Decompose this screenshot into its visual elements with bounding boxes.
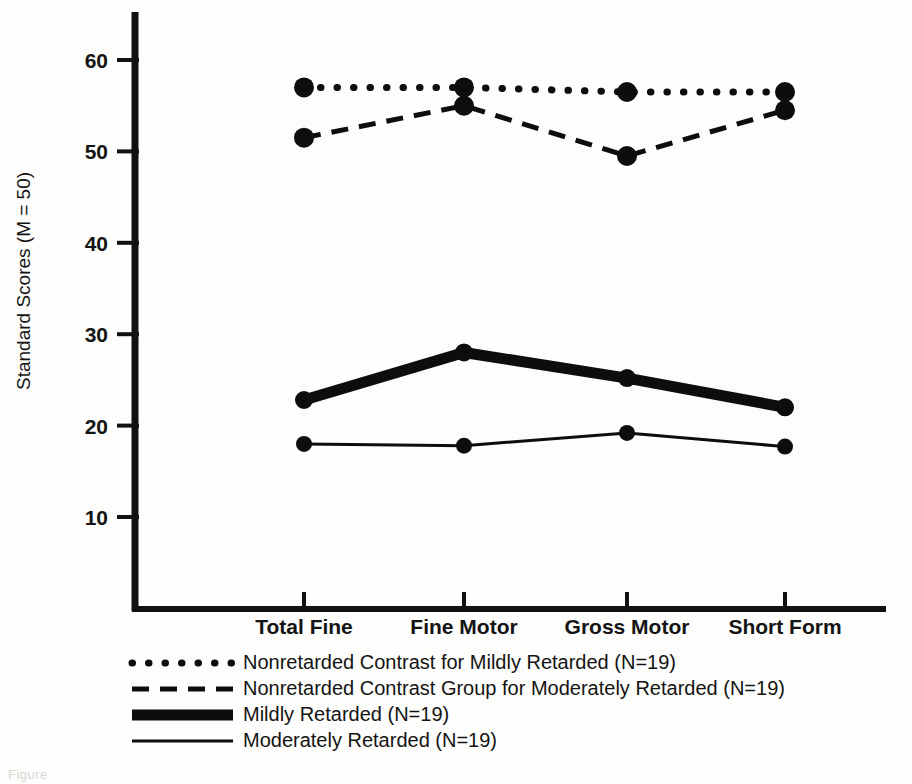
y-axis-title: Standard Scores (M = 50) <box>13 172 34 390</box>
data-point <box>618 369 636 387</box>
data-point <box>454 96 474 116</box>
x-category-label: Fine Motor <box>410 615 517 638</box>
x-category-label: Short Form <box>728 615 841 638</box>
legend-label: Moderately Retarded (N=19) <box>243 729 497 751</box>
chart-figure: 605040302010 Total FineFine MotorGross M… <box>0 0 912 784</box>
data-point <box>295 391 313 409</box>
legend-label: Mildly Retarded (N=19) <box>243 703 449 725</box>
line-chart: 605040302010 Total FineFine MotorGross M… <box>0 0 912 784</box>
data-point <box>294 128 314 148</box>
y-tick-label: 10 <box>85 506 108 529</box>
legend: Nonretarded Contrast for Mildly Retarded… <box>132 651 785 751</box>
data-point <box>294 77 314 97</box>
data-point <box>775 100 795 120</box>
series-line-3 <box>304 433 785 447</box>
caption-fragment: Figure <box>8 767 48 782</box>
data-point <box>296 436 312 452</box>
y-tick-group: 605040302010 <box>85 49 139 529</box>
data-point <box>455 343 473 361</box>
data-point <box>776 398 794 416</box>
data-point <box>456 438 472 454</box>
data-point <box>619 425 635 441</box>
data-point <box>454 77 474 97</box>
y-tick-label: 50 <box>85 140 108 163</box>
legend-label: Nonretarded Contrast for Mildly Retarded… <box>243 651 676 673</box>
y-tick-label: 40 <box>85 232 108 255</box>
data-point <box>617 146 637 166</box>
y-tick-label: 30 <box>85 323 108 346</box>
series-line-0 <box>304 87 785 92</box>
data-point <box>775 82 795 102</box>
data-point <box>777 439 793 455</box>
x-tick-group: Total FineFine MotorGross MotorShort For… <box>255 592 841 638</box>
y-tick-label: 60 <box>85 49 108 72</box>
y-tick-label: 20 <box>85 415 108 438</box>
x-category-label: Gross Motor <box>565 615 690 638</box>
x-category-label: Total Fine <box>255 615 353 638</box>
series-line-1 <box>304 106 785 156</box>
series-line-2 <box>304 352 785 407</box>
data-point <box>617 82 637 102</box>
series-group <box>294 77 795 454</box>
legend-label: Nonretarded Contrast Group for Moderatel… <box>243 677 785 699</box>
